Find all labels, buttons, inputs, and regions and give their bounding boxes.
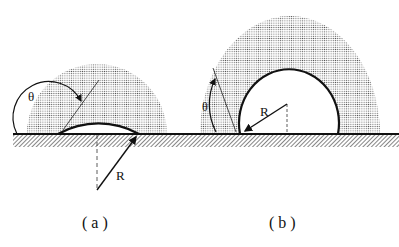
caption-b: ( b ) xyxy=(269,214,296,232)
theta-label-a: θ xyxy=(28,89,34,104)
substrate-hatch xyxy=(13,135,399,147)
theta-label-b: θ xyxy=(202,100,208,114)
panel-a: θ R ( a ) xyxy=(13,64,167,232)
contact-angle-diagram: θ R ( a ) θ R ( b ) xyxy=(0,0,399,247)
radius-label-a: R xyxy=(116,168,125,183)
caption-a: ( a ) xyxy=(82,214,108,232)
panel-b: θ R ( b ) xyxy=(200,16,380,232)
radius-label-b: R xyxy=(260,104,269,119)
